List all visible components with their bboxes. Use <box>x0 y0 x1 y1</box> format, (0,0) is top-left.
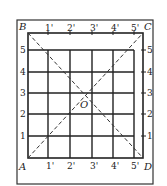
corner-label-d: D <box>143 161 152 172</box>
center-label-o: O <box>80 99 88 110</box>
right-tick-2: 2 <box>147 109 153 119</box>
left-tick-3: 3 <box>20 88 26 98</box>
corner-label-a: A <box>18 161 26 172</box>
left-tick-4: 4 <box>20 67 26 77</box>
top-tick-4: 4' <box>111 23 119 33</box>
right-tick-3: 3 <box>147 88 153 98</box>
right-tick-4: 4 <box>147 67 153 77</box>
top-tick-2: 2' <box>67 23 75 33</box>
left-tick-2: 2 <box>20 109 26 119</box>
bottom-tick-2: 2' <box>67 161 75 171</box>
top-tick-1: 1' <box>45 23 53 33</box>
bottom-tick-3: 3' <box>90 161 98 171</box>
left-tick-1: 1 <box>20 131 26 141</box>
bottom-tick-5: 5' <box>131 161 139 171</box>
bottom-tick-1: 1' <box>46 161 54 171</box>
corner-label-b: B <box>18 21 26 32</box>
left-tick-5: 5 <box>20 45 26 55</box>
bottom-tick-4: 4' <box>111 161 119 171</box>
top-tick-3: 3' <box>90 23 98 33</box>
diagonals <box>28 33 143 158</box>
corner-label-c: C <box>144 21 152 32</box>
top-tick-5: 5' <box>131 23 139 33</box>
diagram-canvas: B C A D O 1' 2' 3' 4' 5' 1' 2' 3' 4' 5' … <box>0 0 167 186</box>
right-tick-5: 5 <box>147 45 153 55</box>
right-tick-1: 1 <box>147 131 153 141</box>
